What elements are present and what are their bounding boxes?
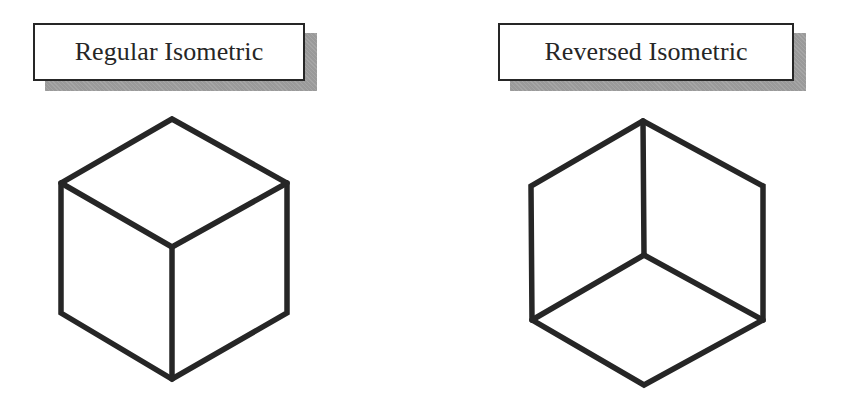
cube-outline: [531, 121, 763, 385]
cube-bottom-face-back-edges: [532, 255, 763, 320]
reversed-cube-edges: [531, 121, 763, 385]
reversed-isometric-cube: [0, 0, 842, 407]
cube-back-vertical-edge: [643, 121, 644, 255]
